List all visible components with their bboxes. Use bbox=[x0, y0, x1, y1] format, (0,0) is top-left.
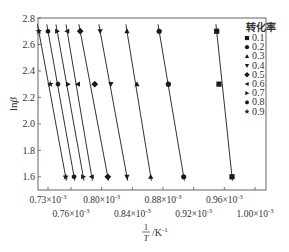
marker-circle-0.2 bbox=[157, 29, 162, 34]
x-axis-label: 1 T /K-1 bbox=[142, 222, 168, 243]
marker-circle-0.2 bbox=[166, 82, 171, 87]
x-tick-label: 0.88×10-3 bbox=[145, 193, 182, 205]
fit-line-0.9 bbox=[38, 24, 67, 180]
fit-line-0.3 bbox=[126, 24, 152, 180]
marker-diamond-0.5 bbox=[77, 28, 84, 35]
legend-marker-hexagon bbox=[245, 100, 249, 104]
x-label-numerator: 1 bbox=[144, 222, 149, 232]
marker-square-0.1 bbox=[214, 29, 219, 34]
y-tick-label: 2.8 bbox=[23, 13, 36, 24]
x-label-denominator: T bbox=[143, 233, 149, 243]
legend: 转化率 0.10.20.30.40.50.60.70.80.9 bbox=[244, 21, 276, 117]
x-tick-label: 0.92×10-3 bbox=[175, 207, 212, 219]
y-tick-label: 2.2 bbox=[23, 92, 36, 103]
y-tick-label: 1.6 bbox=[23, 171, 36, 182]
fit-line-0.8 bbox=[47, 24, 75, 180]
x-tick-label: 1.00×10-3 bbox=[237, 207, 274, 219]
x-axis: 0.73×10-30.76×10-30.80×10-30.84×10-30.88… bbox=[30, 187, 274, 219]
x-tick-label: 0.80×10-3 bbox=[83, 193, 120, 205]
legend-marker-triangle-down bbox=[245, 64, 249, 68]
marker-circle-0.2 bbox=[181, 174, 186, 179]
marker-triangle-down-0.4 bbox=[98, 29, 103, 34]
marker-triangle-up-0.3 bbox=[124, 28, 129, 33]
marker-triangle-up-0.3 bbox=[148, 174, 153, 179]
marker-hexagon-0.8 bbox=[46, 29, 51, 34]
marker-triangle-right-0.7 bbox=[66, 82, 71, 87]
data-markers bbox=[36, 28, 235, 180]
marker-diamond-0.5 bbox=[104, 173, 111, 180]
legend-marker-diamond bbox=[244, 72, 249, 77]
x-tick-label: 0.76×10-3 bbox=[53, 207, 90, 219]
marker-hexagon-0.8 bbox=[72, 174, 77, 179]
x-tick-label: 0.96×10-3 bbox=[206, 193, 243, 205]
legend-marker-square bbox=[245, 36, 249, 40]
marker-hexagon-0.8 bbox=[56, 82, 61, 87]
y-tick-label: 2.6 bbox=[23, 39, 36, 50]
marker-triangle-down-0.4 bbox=[124, 175, 129, 180]
marker-square-0.1 bbox=[229, 174, 234, 179]
x-tick-label: 0.73×10-3 bbox=[30, 193, 67, 205]
legend-item-0.9: 0.9 bbox=[244, 106, 264, 117]
legend-marker-triangle-right bbox=[245, 91, 249, 95]
y-tick-label: 2.4 bbox=[23, 65, 36, 76]
x-tick-label: 0.84×10-3 bbox=[114, 207, 151, 219]
legend-marker-triangle-left bbox=[245, 82, 249, 86]
fit-line-0.5 bbox=[79, 24, 109, 180]
fit-line-0.1 bbox=[216, 24, 232, 180]
marker-square-0.1 bbox=[216, 82, 221, 87]
legend-marker-circle bbox=[245, 45, 249, 49]
y-tick-label: 2.0 bbox=[23, 118, 36, 129]
y-axis-label: lnβ bbox=[7, 96, 19, 111]
legend-label: 0.9 bbox=[252, 106, 265, 117]
arrhenius-scatter-chart: 1.61.82.02.22.42.62.8 0.73×10-30.76×10-3… bbox=[0, 0, 289, 252]
marker-diamond-0.5 bbox=[91, 81, 98, 88]
x-label-unit: /K-1 bbox=[152, 226, 168, 238]
y-label-symbol: β bbox=[7, 96, 19, 103]
y-tick-label: 1.8 bbox=[23, 145, 36, 156]
fit-lines bbox=[38, 24, 233, 180]
fit-line-0.4 bbox=[99, 24, 128, 180]
legend-marker-star bbox=[244, 109, 249, 114]
fit-line-0.2 bbox=[158, 24, 184, 180]
svg-text:lnβ: lnβ bbox=[7, 96, 19, 111]
marker-triangle-down-0.4 bbox=[108, 82, 113, 87]
legend-marker-triangle-up bbox=[245, 54, 249, 58]
